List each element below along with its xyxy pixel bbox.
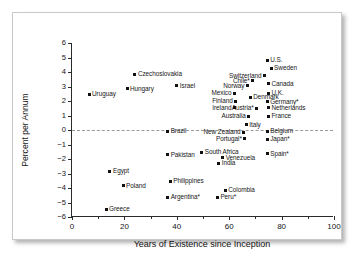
data-point-label: France: [272, 113, 292, 119]
data-point: [266, 59, 269, 62]
y-tick: [68, 188, 72, 189]
y-tick-label: −5: [57, 199, 66, 207]
data-point: [175, 84, 178, 87]
y-tick-label: −2: [57, 155, 66, 163]
data-point: [251, 79, 254, 82]
data-point-label: Denmark: [253, 94, 279, 100]
x-tick: [334, 216, 335, 220]
data-point: [234, 100, 237, 103]
data-point: [105, 208, 108, 211]
data-point-label: Japan*: [270, 136, 290, 142]
x-axis-label: Years of Existence since Inception: [71, 239, 333, 249]
figure-container: Percent per Annum Years of Existence sin…: [0, 0, 356, 258]
x-tick: [72, 216, 73, 220]
data-point: [166, 153, 169, 156]
data-point: [126, 87, 129, 90]
x-minor-tick: [203, 216, 204, 219]
data-point-label: Venezuela: [226, 154, 255, 160]
data-point: [224, 189, 227, 192]
data-point-label: Peru*: [220, 194, 236, 200]
data-point: [133, 73, 136, 76]
data-point-label: Australia: [221, 113, 245, 119]
y-tick-label: 2: [62, 97, 66, 105]
data-point: [166, 196, 169, 199]
data-point-label: Mexico: [211, 90, 231, 96]
data-point-label: Italy: [249, 122, 260, 128]
data-point: [246, 84, 249, 87]
data-point-label: Ireland: [212, 104, 231, 110]
y-tick-label: 1: [62, 112, 66, 120]
y-tick: [68, 130, 72, 131]
data-point-label: Greece: [109, 206, 130, 212]
x-tick: [177, 216, 178, 220]
x-tick-label: 80: [277, 223, 286, 231]
data-point: [267, 115, 270, 118]
y-tick-label: −1: [57, 141, 66, 149]
y-tick-label: −4: [57, 184, 66, 192]
data-point: [217, 162, 220, 165]
data-point-label: Colombia: [228, 187, 255, 193]
y-tick-label: 3: [62, 83, 66, 91]
y-tick-label: 4: [62, 68, 66, 76]
data-point: [169, 180, 172, 183]
data-point-label: Netherlands: [272, 104, 306, 110]
data-point-label: Egypt: [113, 168, 129, 174]
x-tick: [124, 216, 125, 220]
data-point-label: Israel: [180, 83, 195, 89]
data-point: [221, 156, 224, 159]
x-tick: [229, 216, 230, 220]
data-point: [166, 130, 169, 133]
y-tick: [68, 116, 72, 117]
x-minor-tick: [308, 216, 309, 219]
data-point-label: Poland: [126, 183, 146, 189]
data-point-label: Uruguay: [92, 91, 116, 97]
x-tick-label: 60: [225, 223, 234, 231]
data-point: [216, 196, 219, 199]
data-point: [247, 115, 250, 118]
x-tick-label: 0: [70, 223, 74, 231]
data-point-label: Spain*: [270, 151, 289, 157]
data-point-label: Canada: [272, 80, 294, 86]
data-point: [266, 138, 269, 141]
y-tick-label: −6: [57, 213, 66, 221]
data-point-label: Argentina*: [171, 194, 200, 200]
x-minor-tick: [151, 216, 152, 219]
data-point-label: Czechoslovakia: [138, 71, 182, 77]
y-tick-label: 5: [62, 54, 66, 62]
y-tick-label: 6: [62, 39, 66, 47]
y-tick: [68, 159, 72, 160]
data-point: [266, 152, 269, 155]
zero-reference-line: [72, 130, 333, 131]
data-point: [243, 137, 246, 140]
x-tick-label: 100: [327, 223, 340, 231]
data-point: [267, 106, 270, 109]
data-point: [122, 184, 125, 187]
data-point: [233, 106, 236, 109]
data-point-label: Portugal*: [216, 135, 242, 141]
data-point-label: Sweden: [274, 65, 297, 71]
data-point: [233, 92, 236, 95]
y-tick: [68, 87, 72, 88]
data-point-label: Hungary: [130, 85, 154, 91]
data-point: [267, 82, 270, 85]
data-point: [270, 67, 273, 70]
x-minor-tick: [255, 216, 256, 219]
y-tick-label: −3: [57, 170, 66, 178]
data-point: [88, 93, 91, 96]
data-point-label: Pakistan: [171, 151, 195, 157]
data-point: [245, 123, 248, 126]
data-point: [249, 96, 252, 99]
data-point-label: Belgium: [270, 128, 293, 134]
y-tick-label: 0: [62, 126, 66, 134]
chart-card: Percent per Annum Years of Existence sin…: [12, 12, 342, 240]
x-tick-label: 40: [172, 223, 181, 231]
y-tick: [68, 58, 72, 59]
y-tick: [68, 145, 72, 146]
y-tick: [68, 101, 72, 102]
data-point: [255, 107, 258, 110]
y-axis-label: Percent per Annum: [20, 93, 30, 167]
y-tick: [68, 43, 72, 44]
data-point-label: Philippines: [173, 178, 203, 184]
x-tick: [282, 216, 283, 220]
x-minor-tick: [98, 216, 99, 219]
